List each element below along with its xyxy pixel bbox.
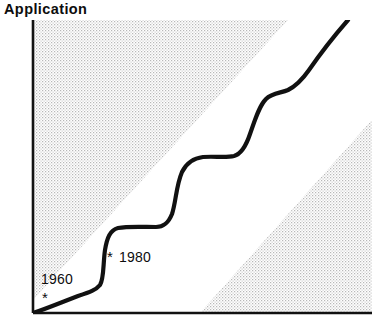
annotation-marker-1980: * [107, 249, 113, 264]
annotation-label-1980: 1980 [119, 250, 151, 264]
chart-figure: Application 1960 * * [0, 0, 378, 323]
annotation-label-1960: 1960 [41, 272, 73, 286]
annotation-marker-1960: * [42, 290, 48, 305]
lower-right-shaded-band [191, 113, 378, 323]
